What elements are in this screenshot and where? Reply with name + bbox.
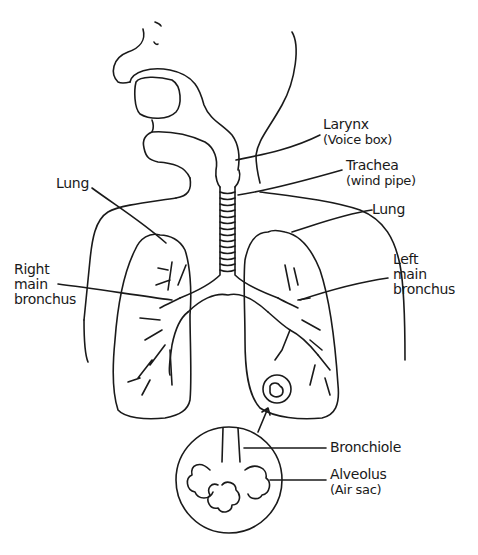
head-outline xyxy=(113,22,296,183)
alveolus-inset-large xyxy=(176,427,282,533)
main-bronchi xyxy=(160,294,318,375)
label-larynx: Larynx (Voice box) xyxy=(323,117,392,147)
alveolus-inset-small xyxy=(263,375,291,403)
trachea-rings xyxy=(220,192,235,272)
label-left-main-bronchus: Left main bronchus xyxy=(393,252,455,297)
right-lung xyxy=(113,234,191,418)
trachea xyxy=(180,187,278,298)
label-lung-right: Lung xyxy=(372,202,405,217)
magnify-arrow xyxy=(258,408,270,432)
label-bronchiole: Bronchiole xyxy=(330,440,401,455)
label-trachea: Trachea (wind pipe) xyxy=(346,158,416,188)
airway-upper xyxy=(130,69,240,198)
label-lung-left: Lung xyxy=(56,176,89,191)
label-alveolus: Alveolus (Air sac) xyxy=(330,467,387,497)
label-right-main-bronchus: Right main bronchus xyxy=(14,262,76,307)
